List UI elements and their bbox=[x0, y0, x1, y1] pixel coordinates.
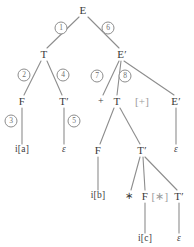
tree-node-nonterminal: E′ bbox=[171, 96, 181, 107]
tree-node-annotation: [+] bbox=[135, 96, 149, 107]
tree-edge bbox=[100, 108, 114, 144]
derivation-step-badge: 8 bbox=[119, 70, 132, 83]
tree-node-nonterminal: E bbox=[80, 5, 87, 16]
tree-node-nonterminal: F bbox=[19, 96, 25, 107]
tree-node-terminal: i[c] bbox=[138, 234, 152, 244]
tree-node-nonterminal: T bbox=[41, 49, 48, 60]
tree-edges-layer bbox=[0, 0, 194, 247]
tree-node-nonterminal: T′ bbox=[174, 191, 184, 202]
tree-edge bbox=[145, 157, 177, 190]
tree-node-nonterminal: F bbox=[142, 191, 148, 202]
tree-node-epsilon: ε bbox=[174, 145, 178, 155]
tree-node-annotation: [∗] bbox=[152, 191, 169, 202]
tree-edge bbox=[103, 61, 119, 95]
derivation-step-badge: 4 bbox=[57, 69, 70, 82]
tree-node-operator: ∗ bbox=[125, 191, 133, 201]
derivation-step-badge: 7 bbox=[91, 70, 104, 83]
tree-edge bbox=[143, 157, 145, 190]
tree-node-nonterminal: T′ bbox=[137, 145, 147, 156]
derivation-step-badge: 5 bbox=[68, 115, 81, 128]
tree-node-epsilon: ε bbox=[62, 145, 66, 155]
derivation-step-badge: 2 bbox=[18, 69, 31, 82]
tree-node-nonterminal: E′ bbox=[117, 49, 127, 60]
tree-node-terminal: i[b] bbox=[91, 191, 106, 201]
tree-node-nonterminal: T′ bbox=[59, 96, 69, 107]
tree-node-nonterminal: T bbox=[114, 96, 121, 107]
tree-edge bbox=[131, 157, 140, 190]
derivation-step-badge: 6 bbox=[102, 22, 115, 35]
tree-node-terminal: i[a] bbox=[15, 145, 29, 155]
derivation-step-badge: 1 bbox=[55, 22, 68, 35]
tree-node-epsilon: ε bbox=[177, 234, 181, 244]
tree-edge bbox=[120, 108, 140, 144]
derivation-step-badge: 3 bbox=[5, 115, 18, 128]
tree-node-nonterminal: F bbox=[95, 145, 101, 156]
tree-node-operator: + bbox=[98, 96, 104, 106]
tree-edge bbox=[124, 61, 174, 95]
parse-tree-diagram: ETE′FT′i[a]ε+T[+]E′εFT′i[b]∗F[∗]T′i[c]ε … bbox=[0, 0, 194, 247]
